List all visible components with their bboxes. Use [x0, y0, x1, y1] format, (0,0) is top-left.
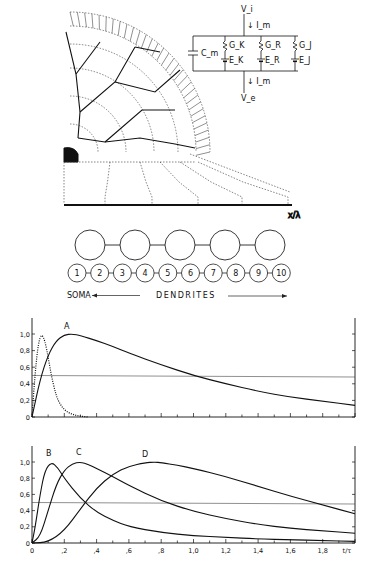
- terminal-branch: [77, 12, 80, 26]
- battery-icon: [259, 61, 263, 63]
- arrow-left-head: [92, 294, 97, 298]
- terminal-branch: [177, 76, 187, 86]
- emf-label: E_R: [265, 56, 280, 65]
- figure-canvas: x/λ V_i↓ I_m↓ I_mV_eC_mG_KE_KG_RE_RG_JE_…: [0, 0, 376, 571]
- compartment: [165, 230, 195, 260]
- battery-icon: [293, 61, 297, 63]
- terminal-branch: [195, 130, 208, 135]
- battery-icon: [223, 61, 227, 63]
- compartment-chain-10: 12345678910SOMADENDRITES: [67, 264, 290, 300]
- iso-arc: [70, 12, 210, 152]
- conductance-label: G_K: [229, 41, 245, 50]
- distance-axis-label: x/λ: [288, 211, 300, 220]
- terminal-branch: [166, 58, 174, 70]
- dendrite-branch: [105, 110, 175, 142]
- terminal-branch: [196, 145, 210, 149]
- curve-label-B: B: [46, 449, 52, 458]
- resistor-icon: [223, 41, 227, 51]
- current-bottom: ↓ I_m: [247, 77, 271, 86]
- iso-arc: [70, 26, 196, 152]
- y-tick-label: 0,8: [20, 475, 30, 483]
- curve-label-C: C: [76, 448, 82, 457]
- terminal-branch: [85, 13, 87, 27]
- x-tick-label: ,4: [93, 547, 99, 555]
- arrow-right-head: [282, 294, 287, 298]
- iso-arc: [70, 124, 98, 152]
- x-tick-label: ,6: [126, 547, 132, 555]
- x-tick-label: ,2: [61, 547, 67, 555]
- node-ve: V_e: [241, 94, 255, 103]
- compartment-number: 1: [74, 269, 79, 278]
- x-tick-label: 1,6: [285, 547, 295, 555]
- compartment-number: 4: [143, 269, 148, 278]
- terminal-branch: [196, 152, 210, 155]
- compartment: [75, 230, 105, 260]
- compartment-number: 2: [97, 269, 102, 278]
- compartment-number: 6: [188, 269, 193, 278]
- terminal-branch: [118, 21, 120, 35]
- projection-line: [180, 162, 242, 204]
- compartment-number: 10: [276, 269, 286, 278]
- x-tick-label: 1,4: [253, 547, 263, 555]
- curve-label-A: A: [64, 322, 70, 331]
- terminal-branch: [136, 31, 140, 45]
- y-tick-label: 0,8: [20, 347, 30, 355]
- compartment-chain-5: [75, 230, 285, 260]
- curve-label-D: D: [142, 450, 148, 459]
- terminal-branch: [112, 19, 113, 33]
- terminal-branch: [92, 14, 93, 28]
- capacitor-label: C_m: [201, 49, 219, 58]
- projection-line: [198, 162, 288, 204]
- x-tick-label: 0: [30, 547, 34, 555]
- conductance-label: G_R: [265, 41, 281, 50]
- terminal-branch: [70, 12, 73, 26]
- projection-line: [140, 162, 152, 204]
- iso-arc: [70, 96, 126, 152]
- x-tick-label: ,8: [158, 547, 164, 555]
- x-tick-label: 1,0: [188, 547, 198, 555]
- compartment: [120, 230, 150, 260]
- curve-input-pulse: [32, 336, 89, 417]
- resistor-icon: [293, 41, 297, 51]
- y-tick-label: 0,4: [20, 380, 30, 388]
- terminal-branch: [170, 64, 179, 75]
- projection-line: [160, 162, 198, 204]
- y-tick-label: 0,2: [20, 523, 30, 531]
- x-tick-label: 1,8: [318, 547, 328, 555]
- compartment-number: 8: [233, 269, 238, 278]
- compartment-number: 7: [211, 269, 216, 278]
- dendrites-label: DENDRITES: [156, 291, 216, 300]
- projection-line: [190, 154, 290, 192]
- y-tick-label: 0,4: [20, 507, 30, 515]
- dendrite-branch: [135, 47, 160, 52]
- terminal-branch: [186, 95, 197, 104]
- y-tick-label: 1,0: [20, 331, 30, 339]
- chart-bottom: 00,20,40,60,81,00,2,4,6,81,01,21,41,61,8…: [20, 446, 355, 555]
- emf-label: E_J: [299, 56, 310, 65]
- terminal-branch: [157, 48, 164, 61]
- soma-label: SOMA: [67, 291, 91, 300]
- y-tick-label: 0,6: [20, 364, 30, 372]
- resistor-icon: [259, 41, 263, 51]
- y-tick-label: 0,2: [20, 397, 30, 405]
- terminal-branch: [191, 109, 203, 116]
- compartment: [210, 230, 240, 260]
- terminal-branch: [193, 116, 206, 123]
- half-max-line: [32, 503, 355, 505]
- compartment-number: 3: [120, 269, 125, 278]
- compartment-number: 9: [256, 269, 261, 278]
- terminal-branch: [161, 53, 169, 65]
- dendrite-branch: [76, 42, 100, 74]
- dendrite-branch: [115, 70, 180, 92]
- y-tick-label: 0,6: [20, 491, 30, 499]
- x-axis-label: t/τ: [343, 547, 352, 555]
- conductance-label: G_J: [299, 41, 312, 50]
- emf-label: E_K: [229, 56, 244, 65]
- terminal-branch: [181, 82, 192, 92]
- soma: [64, 148, 78, 162]
- y-tick-label: 1,0: [20, 459, 30, 467]
- chart-top: 00,20,40,60,81,0A: [20, 318, 355, 422]
- terminal-branch: [152, 43, 158, 56]
- terminal-branch: [189, 102, 201, 110]
- compartment: [255, 230, 285, 260]
